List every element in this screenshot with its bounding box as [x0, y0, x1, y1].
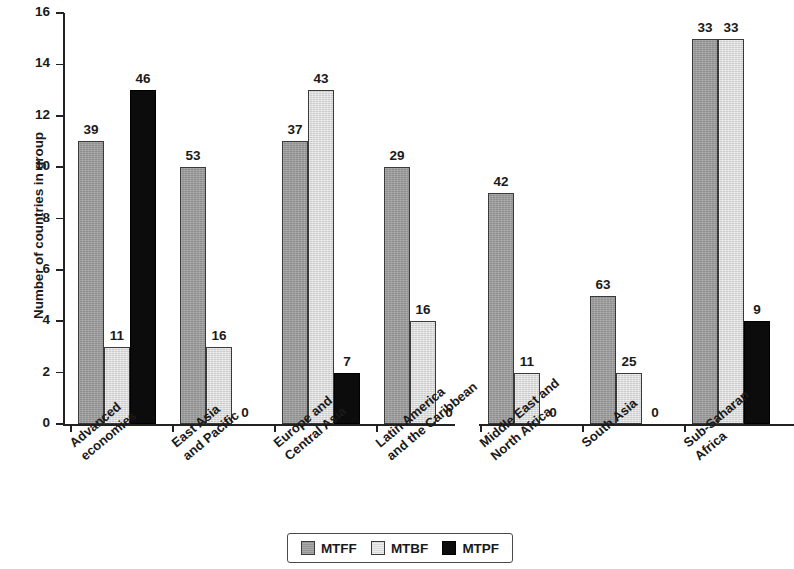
bar-value-label: 33: [709, 20, 753, 35]
y-axis-tick-label: 2: [0, 364, 50, 379]
y-axis-tick-label: 12: [0, 107, 50, 122]
bar: [282, 141, 308, 424]
x-axis-tick-mark: [172, 424, 174, 432]
legend-swatch-icon: [442, 541, 456, 555]
x-axis-tick-mark: [70, 424, 72, 432]
y-axis-tick-label: 10: [0, 158, 50, 173]
legend-item-label: MTBF: [391, 541, 429, 556]
y-axis-tick-label: 0: [0, 415, 50, 430]
y-axis-tick-label: 16: [0, 4, 50, 19]
bar-value-label: 7: [325, 354, 369, 369]
legend-item-label: MTFF: [321, 541, 357, 556]
y-axis-tick-mark: [56, 218, 64, 220]
bar-value-label: 43: [299, 71, 343, 86]
bar: [180, 167, 206, 424]
y-axis-tick-mark: [56, 115, 64, 117]
bar-value-label: 11: [505, 354, 549, 369]
y-axis-tick-mark: [56, 64, 64, 66]
bar-value-label: 63: [581, 277, 625, 292]
y-axis-tick-mark: [56, 12, 64, 14]
x-axis-tick-mark: [376, 424, 378, 432]
legend-swatch-icon: [371, 541, 385, 555]
y-axis-tick-label: 8: [0, 210, 50, 225]
x-axis-tick-mark: [582, 424, 584, 432]
bar: [78, 141, 104, 424]
chart-legend: MTFFMTBFMTPF: [287, 533, 513, 563]
bar-value-label: 16: [197, 328, 241, 343]
bar-value-label: 9: [735, 302, 779, 317]
y-axis-tick-mark: [56, 269, 64, 271]
y-axis-tick-label: 4: [0, 312, 50, 327]
y-axis-tick-mark: [56, 320, 64, 322]
bar: [130, 90, 156, 424]
bar: [692, 39, 718, 424]
bar-value-label: 42: [479, 174, 523, 189]
bar: [308, 90, 334, 424]
legend-swatch-icon: [301, 541, 315, 555]
y-axis-tick-mark: [56, 166, 64, 168]
bar: [718, 39, 744, 424]
bar-chart: Number of countries in group 02468101214…: [0, 0, 794, 569]
bar-value-label: 39: [69, 122, 113, 137]
bar-value-label: 29: [375, 148, 419, 163]
legend-item-mtpf[interactable]: MTPF: [442, 541, 499, 556]
legend-item-mtff[interactable]: MTFF: [301, 541, 357, 556]
bar-value-label: 53: [171, 148, 215, 163]
bar: [488, 193, 514, 424]
y-axis-tick-label: 14: [0, 55, 50, 70]
x-axis-tick-mark: [684, 424, 686, 432]
bar-value-label: 46: [121, 71, 165, 86]
x-axis-tick-mark: [480, 424, 482, 432]
legend-item-label: MTPF: [462, 541, 499, 556]
legend-item-mtbf[interactable]: MTBF: [371, 541, 429, 556]
y-axis-tick-label: 6: [0, 261, 50, 276]
bar-value-label: 25: [607, 354, 651, 369]
bar-value-label: 16: [401, 302, 445, 317]
x-axis-tick-mark: [274, 424, 276, 432]
bar: [384, 167, 410, 424]
y-axis-tick-mark: [56, 372, 64, 374]
